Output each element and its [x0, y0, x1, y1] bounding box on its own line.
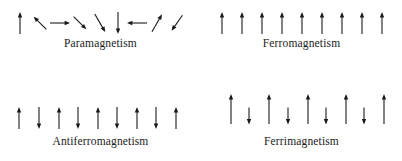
panel-label-ferromagnetism: Ferromagnetism — [201, 37, 402, 49]
panel-label-paramagnetism: Paramagnetism — [0, 37, 201, 49]
spin-arrow-antiferromagnetism-6 — [115, 107, 119, 129]
panel-ferromagnetism: Ferromagnetism — [201, 0, 402, 80]
spin-arrow-ferrimagnetism-6 — [324, 108, 328, 125]
spin-arrow-paramagnetism-5 — [93, 13, 107, 33]
spin-arrow-paramagnetism-9 — [170, 14, 185, 32]
panel-paramagnetism: Paramagnetism — [0, 0, 201, 80]
panel-label-antiferromagnetism: Antiferromagnetism — [0, 135, 201, 147]
spin-arrow-antiferromagnetism-9 — [174, 107, 178, 129]
spin-arrow-ferromagnetism-1 — [220, 12, 224, 34]
spin-arrow-ferromagnetism-2 — [240, 12, 244, 34]
spin-arrow-antiferromagnetism-4 — [76, 107, 80, 129]
spin-arrow-ferromagnetism-4 — [280, 12, 284, 34]
spin-arrow-ferrimagnetism-7 — [344, 94, 348, 124]
spin-arrow-paramagnetism-8 — [150, 13, 164, 33]
spin-arrow-ferromagnetism-6 — [320, 12, 324, 34]
spin-row-ferrimagnetism — [201, 89, 402, 135]
panel-ferrimagnetism: Ferrimagnetism — [201, 81, 402, 161]
spin-arrow-paramagnetism-6 — [116, 12, 120, 34]
spin-arrow-antiferromagnetism-5 — [96, 107, 100, 129]
spin-arrow-paramagnetism-1 — [18, 12, 22, 34]
spin-arrow-ferrimagnetism-5 — [306, 94, 310, 124]
spin-arrow-paramagnetism-7 — [127, 21, 147, 25]
spin-arrow-ferromagnetism-8 — [360, 12, 364, 34]
spin-arrow-ferrimagnetism-9 — [382, 94, 386, 124]
spin-arrow-ferromagnetism-5 — [300, 12, 304, 34]
spin-arrow-ferrimagnetism-1 — [229, 94, 233, 124]
spin-arrow-paramagnetism-4 — [72, 15, 88, 31]
panel-label-ferrimagnetism: Ferrimagnetism — [201, 135, 402, 147]
spin-arrow-ferromagnetism-9 — [380, 12, 384, 34]
spin-arrow-ferrimagnetism-2 — [247, 108, 251, 125]
spin-arrow-paramagnetism-2 — [32, 15, 48, 31]
spin-arrow-ferrimagnetism-3 — [267, 94, 271, 124]
spin-arrow-paramagnetism-3 — [50, 21, 70, 25]
spin-arrow-antiferromagnetism-7 — [135, 107, 139, 129]
spin-arrow-antiferromagnetism-1 — [17, 107, 21, 129]
spin-arrow-antiferromagnetism-3 — [57, 107, 61, 129]
spin-arrow-antiferromagnetism-8 — [154, 107, 158, 129]
spin-arrow-ferromagnetism-7 — [340, 12, 344, 34]
spin-arrow-antiferromagnetism-2 — [37, 107, 41, 129]
spin-arrow-ferrimagnetism-8 — [362, 108, 366, 125]
spin-arrow-ferrimagnetism-4 — [286, 108, 290, 125]
arrow-group-ferrimagnetism — [201, 89, 402, 139]
spin-arrow-ferromagnetism-3 — [260, 12, 264, 34]
panel-antiferromagnetism: Antiferromagnetism — [0, 81, 201, 161]
magnetic-ordering-diagram: Paramagnetism Ferromagnetism Antiferroma… — [0, 0, 402, 161]
